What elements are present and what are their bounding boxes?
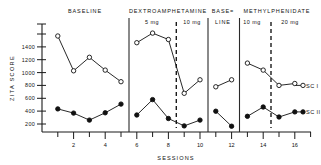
dose-label-dextro-10mg: 10 mg — [183, 19, 200, 25]
y-tick-label-400: 400 — [25, 108, 35, 114]
series-sc-2-segment-dextro — [137, 100, 200, 126]
y-tick-label-200: 200 — [25, 121, 35, 127]
figure-container: 1400 1200 1000 800 600 400 200 ZITA SCOR… — [0, 0, 321, 165]
x-tick-label-8: 8 — [167, 142, 170, 148]
x-tick-label-4: 4 — [104, 142, 107, 148]
legend-marker-sc-2-filled-circle-icon — [301, 110, 305, 114]
phase-label-dextroamphetamine: DEXTROAMPHETAMINE — [129, 8, 207, 14]
y-tick-label-600: 600 — [25, 95, 35, 101]
series-sc-2-segment-baseline-2 — [216, 111, 232, 126]
dose-label-methyl-10mg: 10 mg — [243, 19, 260, 25]
x-tick-label-14: 14 — [260, 142, 266, 148]
x-tick-marks — [58, 132, 311, 139]
y-tick-label-1400: 1400 — [22, 44, 35, 50]
legend-label-sc-2: SC II — [306, 109, 320, 115]
phase-label-baseline-2-line1: BASE= — [212, 8, 234, 14]
legend-label-sc-1: SC I — [306, 83, 319, 89]
x-tick-label-16: 16 — [292, 142, 298, 148]
phase-label-baseline-2-line2: LINE — [215, 19, 231, 25]
dose-label-dextro-5mg: 5 mg — [145, 19, 159, 25]
x-tick-label-12: 12 — [228, 142, 234, 148]
dose-label-methyl-20mg: 20 mg — [281, 19, 298, 25]
y-tick-label-1000: 1000 — [22, 70, 35, 76]
phase-label-baseline: BASELINE — [68, 8, 102, 14]
x-tick-label-6: 6 — [135, 142, 138, 148]
y-tick-label-800: 800 — [25, 82, 35, 88]
x-tick-label-2: 2 — [72, 142, 75, 148]
x-tick-label-10: 10 — [197, 142, 203, 148]
phase-label-methylphenidate: METHYLPHENIDATE — [244, 8, 311, 14]
x-axis-title: SESSIONS — [157, 155, 194, 161]
legend: SC I SC II — [296, 83, 320, 116]
legend-marker-sc-1-open-circle-icon — [301, 83, 305, 87]
zita-score-line-chart: 1400 1200 1000 800 600 400 200 ZITA SCOR… — [0, 0, 321, 165]
y-tick-label-1200: 1200 — [22, 57, 35, 63]
y-axis-title: ZITA SCORE — [9, 55, 15, 101]
